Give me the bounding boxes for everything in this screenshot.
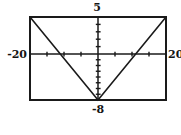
plot-canvas [0, 0, 181, 135]
calculator-graph-figure: 5 -20 20 -8 [0, 0, 181, 135]
